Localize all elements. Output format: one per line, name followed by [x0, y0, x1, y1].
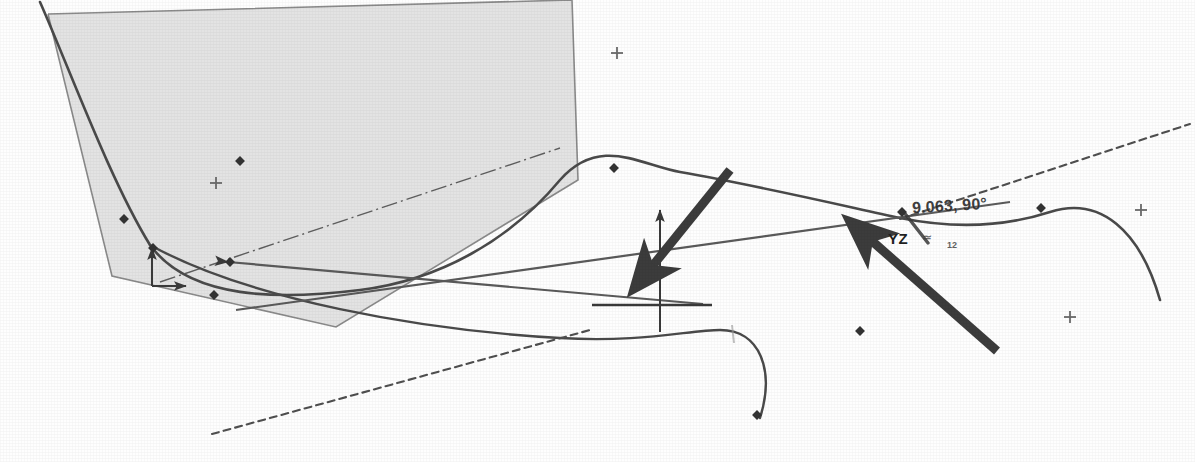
dashed-construction-upper[interactable]	[900, 124, 1190, 219]
dashed-construction-lower[interactable]	[212, 330, 590, 434]
tick-mark-group	[732, 325, 734, 343]
crosshair-mark-1	[611, 47, 623, 59]
node-spline-6[interactable]	[855, 326, 865, 336]
callout-arrow-left[interactable]	[646, 170, 730, 274]
node-spline-5[interactable]	[609, 163, 619, 173]
crosshair-mark-3	[1135, 204, 1147, 216]
node-spline-7[interactable]	[1036, 203, 1046, 213]
shaded-planar-face[interactable]	[48, 0, 578, 327]
cad-viewport[interactable]: 9.063, 90° YZ ≃ 12	[0, 0, 1195, 462]
crosshair-mark-4	[1064, 311, 1076, 323]
callout-arrow-right[interactable]	[864, 234, 997, 351]
sketch-canvas[interactable]	[0, 0, 1195, 462]
tick-mark-faint	[732, 325, 734, 343]
